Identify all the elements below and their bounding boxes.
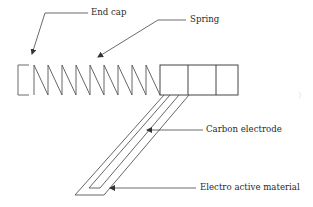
end-cap-leader [32,13,88,54]
diagram-canvas [0,0,313,207]
leader-lines [32,13,203,188]
spring [34,65,160,95]
electro-active-material [75,95,189,195]
spring-leader [98,20,186,57]
label-spring: Spring [190,15,219,24]
housing-boxes [160,65,238,95]
end-cap [18,65,29,95]
page-artifact [299,92,301,98]
carbon-electrode [89,95,179,188]
label-electro-active-material: Electro active material [200,183,300,192]
label-carbon-electrode: Carbon electrode [206,125,282,134]
label-end-cap: End cap [91,8,126,17]
